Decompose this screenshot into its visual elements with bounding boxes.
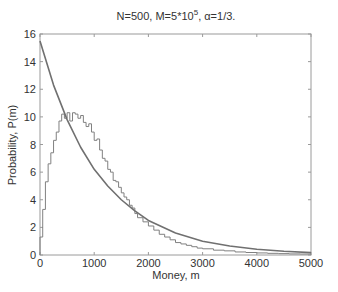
y-tick-label: 2 [30, 221, 36, 233]
x-tick-label: 3000 [190, 257, 214, 269]
x-tick-label: 5000 [299, 257, 323, 269]
chart: N=500, M=5*105, α=1/3. 01000200030004000… [0, 0, 338, 292]
chart-title: N=500, M=5*105, α=1/3. [117, 8, 236, 22]
fit-curve-series [40, 41, 311, 253]
y-tick-label: 4 [30, 194, 36, 206]
x-axis-label: Money, m [152, 269, 199, 281]
axes-box [40, 34, 311, 255]
y-tick-label: 12 [24, 83, 36, 95]
x-tick-label: 1000 [82, 257, 106, 269]
y-tick-label: 8 [30, 139, 36, 151]
y-tick-label: 14 [24, 56, 36, 68]
y-tick-label: 16 [24, 28, 36, 40]
y-tick-label: 6 [30, 166, 36, 178]
x-tick-label: 2000 [136, 257, 160, 269]
y-axis-label: Probability, P(m) [6, 105, 18, 185]
x-tick-label: 4000 [245, 257, 269, 269]
y-tick-label: 0 [30, 249, 36, 261]
y-tick-label: 10 [24, 111, 36, 123]
plot-area: 0100020003000400050000246810121416 [24, 28, 323, 269]
x-tick-label: 0 [37, 257, 43, 269]
